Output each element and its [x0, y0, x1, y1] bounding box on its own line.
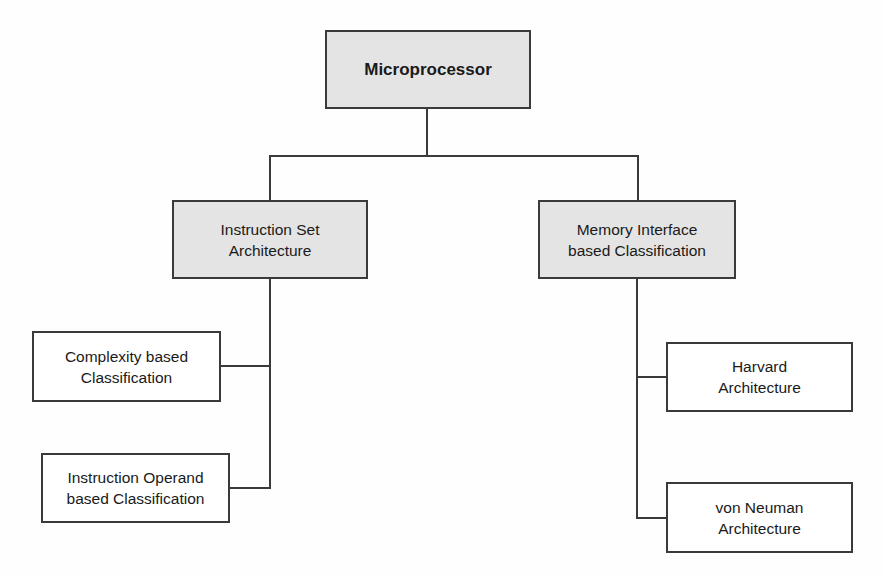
connector-to-operand — [228, 487, 271, 489]
connector-root-down — [426, 108, 428, 157]
diagram-canvas: Microprocessor Instruction Set Architect… — [0, 0, 883, 576]
connector-to-complexity — [219, 365, 271, 367]
node-instruction-set-architecture: Instruction Set Architecture — [172, 200, 368, 279]
connector-to-isa — [269, 155, 271, 201]
node-instruction-operand-classification: Instruction Operand based Classification — [41, 453, 230, 523]
connector-to-harvard — [636, 376, 667, 378]
node-label: Instruction Set Architecture — [220, 219, 319, 261]
node-label: Instruction Operand based Classification — [67, 467, 205, 509]
node-label: Memory Interface based Classification — [568, 219, 706, 261]
node-von-neuman-architecture: von Neuman Architecture — [666, 482, 853, 553]
node-label: Harvard Architecture — [718, 356, 801, 398]
node-complexity-based-classification: Complexity based Classification — [32, 331, 221, 402]
node-harvard-architecture: Harvard Architecture — [666, 342, 853, 412]
node-label: Microprocessor — [364, 59, 492, 80]
node-memory-interface-classification: Memory Interface based Classification — [538, 200, 736, 279]
node-label: Complexity based Classification — [65, 346, 188, 388]
connector-branch-horizontal — [269, 155, 639, 157]
connector-to-vonneuman — [636, 517, 667, 519]
connector-memory-trunk — [636, 278, 638, 519]
node-microprocessor: Microprocessor — [325, 30, 531, 109]
node-label: von Neuman Architecture — [716, 497, 804, 539]
connector-isa-trunk — [269, 278, 271, 489]
connector-to-memory — [637, 155, 639, 201]
